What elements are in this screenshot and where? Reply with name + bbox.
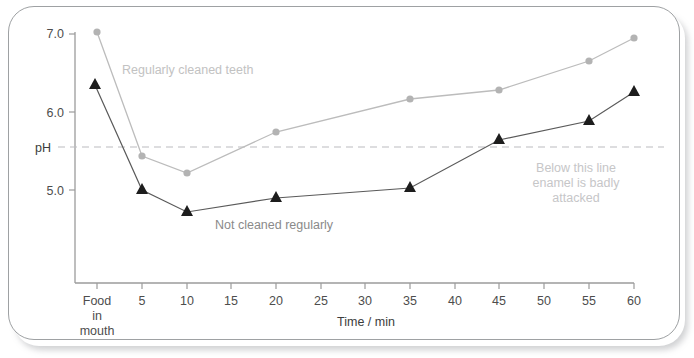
data-point-not-cleaned bbox=[404, 181, 416, 192]
x-tick-label-55: 55 bbox=[582, 294, 596, 308]
data-point-not-cleaned bbox=[493, 133, 505, 144]
data-point-not-cleaned bbox=[136, 183, 148, 194]
data-point-regularly-cleaned bbox=[495, 86, 502, 93]
ph-vs-time-line-chart: 7.0 6.0 5.0 pH Food in mouth 5 10 15 20 … bbox=[0, 0, 694, 358]
annotation-regularly-cleaned-teeth: Regularly cleaned teeth bbox=[122, 63, 253, 77]
data-point-regularly-cleaned bbox=[406, 95, 413, 102]
x-tick-label-30: 30 bbox=[358, 294, 372, 308]
data-point-regularly-cleaned bbox=[630, 34, 637, 41]
data-point-not-cleaned bbox=[270, 191, 282, 202]
data-point-not-cleaned bbox=[583, 114, 595, 125]
x-tick-label-35: 35 bbox=[403, 294, 417, 308]
y-tick-label-5: 5.0 bbox=[47, 184, 64, 198]
data-point-regularly-cleaned bbox=[585, 57, 592, 64]
x-tick-label-45: 45 bbox=[492, 294, 506, 308]
x-tick-label-25: 25 bbox=[314, 294, 328, 308]
y-axis-title-ph: pH bbox=[35, 141, 51, 155]
x-tick-label-40: 40 bbox=[448, 294, 462, 308]
data-point-not-cleaned bbox=[628, 85, 640, 96]
x-tick-label-5: 5 bbox=[139, 294, 146, 308]
data-point-not-cleaned bbox=[89, 78, 101, 89]
x-tick-label-20: 20 bbox=[269, 294, 283, 308]
series-regularly-cleaned-teeth bbox=[93, 28, 637, 176]
y-tick-label-7: 7.0 bbox=[47, 27, 64, 41]
data-point-regularly-cleaned bbox=[272, 128, 279, 135]
figure-root: 7.0 6.0 5.0 pH Food in mouth 5 10 15 20 … bbox=[0, 0, 694, 358]
series-regularly-cleaned-line bbox=[97, 32, 634, 173]
x-axis-title: Time / min bbox=[337, 315, 395, 329]
annotation-below-line-2: enamel is badly bbox=[533, 176, 621, 190]
y-tick-label-6: 6.0 bbox=[47, 106, 64, 120]
x-tick-label-10: 10 bbox=[180, 294, 194, 308]
x-tick-label-50: 50 bbox=[537, 294, 551, 308]
x-tick-label-food-line3: mouth bbox=[80, 324, 115, 338]
x-tick-label-food-line2: in bbox=[92, 309, 102, 323]
annotation-not-cleaned-regularly: Not cleaned regularly bbox=[215, 218, 334, 232]
x-tick-label-60: 60 bbox=[627, 294, 641, 308]
data-point-regularly-cleaned bbox=[183, 169, 190, 176]
x-tick-label-food-line1: Food bbox=[83, 294, 112, 308]
x-tick-label-15: 15 bbox=[224, 294, 238, 308]
annotation-below-line-3: attacked bbox=[552, 191, 599, 205]
annotation-below-line-1: Below this line bbox=[536, 161, 616, 175]
data-point-regularly-cleaned bbox=[138, 152, 145, 159]
data-point-regularly-cleaned bbox=[93, 28, 100, 35]
